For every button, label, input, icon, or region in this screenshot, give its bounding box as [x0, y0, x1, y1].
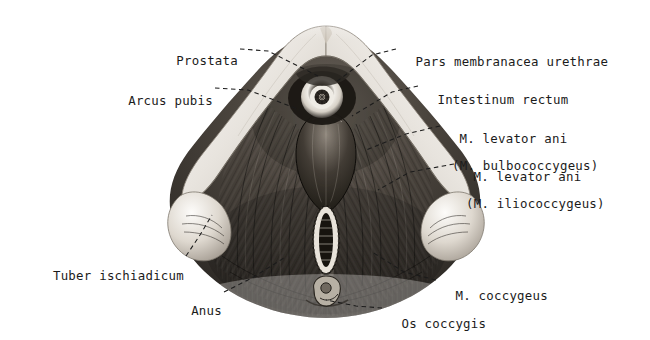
- label-arcus-pubis: Arcus pubis: [0, 80, 213, 107]
- label-intestinum-rectum: Intestinum rectum: [422, 79, 569, 106]
- label-tuber-ischiadicum: Tuber ischiadicum: [0, 255, 184, 282]
- label-pars-membranacea-urethrae: Pars membranacea urethrae: [400, 41, 608, 68]
- label-anus: Anus: [0, 290, 222, 317]
- label-prostata: Prostata: [0, 40, 238, 67]
- label-os-coccygis: Os coccygis: [386, 303, 486, 330]
- label-m-levator-ani-iliococcygeus: M. levator ani (M. iliococcygeus): [458, 156, 605, 224]
- label-m-coccygeus: M. coccygeus: [440, 275, 548, 302]
